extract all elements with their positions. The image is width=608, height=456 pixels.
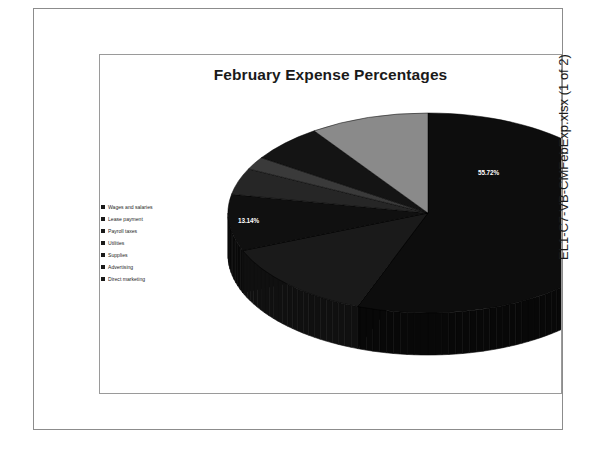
pie-slice-side: [293, 287, 298, 331]
sheet-caption: EL1-C7-VB-CMFebExp.xlsx (1 of 2): [556, 60, 571, 260]
legend-swatch-icon: [101, 265, 105, 269]
legend-item-label: Direct marketing: [108, 276, 145, 282]
pie-slice-side: [309, 293, 315, 337]
pie-slice-side: [534, 296, 540, 340]
legend-swatch-icon: [101, 205, 105, 209]
legend-item-label: Payroll taxes: [108, 228, 137, 234]
pie-slice-side: [250, 259, 253, 304]
pie-slice-side: [528, 298, 534, 342]
pie-slice-side: [366, 308, 373, 351]
pie-slice-side: [288, 284, 293, 328]
pie-slice-side: [254, 262, 258, 307]
pie-slice-side: [332, 301, 338, 345]
pie-slice-side: [496, 306, 503, 349]
pie-slice-side: [551, 290, 556, 334]
pie-slice-side: [298, 289, 303, 333]
pie-slice-side: [269, 274, 273, 319]
pie-data-label: 9.14%: [191, 160, 209, 167]
legend-item-label: Advertising: [108, 264, 133, 270]
pie-slice-side: [516, 301, 522, 345]
pie-slice-side: [326, 299, 332, 343]
pie-slice-side: [338, 302, 344, 346]
pie-slice-side: [414, 313, 421, 355]
chart-object[interactable]: February Expense Percentages Wages and s…: [99, 54, 562, 394]
pie-slice-side: [380, 310, 387, 353]
pie-slice-side: [456, 311, 463, 354]
pie-slice-side: [240, 247, 243, 292]
pie-slice-side: [442, 312, 449, 354]
pie-slice-side: [238, 244, 240, 289]
legend-swatch-icon: [101, 241, 105, 245]
legend-item-label: Supplies: [108, 252, 128, 258]
pie-slice-side: [236, 241, 238, 286]
pie-slice-side: [503, 304, 509, 347]
pie-slice-side: [490, 307, 497, 350]
pie-slice-side: [476, 309, 483, 352]
printed-page-sheet: February Expense Percentages Wages and s…: [33, 8, 563, 430]
pie-slice-side: [303, 291, 309, 335]
pie-slice-side: [421, 313, 428, 355]
pie-data-label: 55.72%: [478, 169, 499, 176]
pie-slice-side: [386, 311, 393, 354]
pie-slice-side: [435, 313, 442, 355]
pie-slice-side: [261, 268, 265, 313]
pie-plot-area[interactable]: 55.72%13.14%9.14%4.27%2.06%6.03%9.64%: [160, 63, 562, 388]
legend-swatch-icon: [101, 277, 105, 281]
pie-slice-side: [257, 265, 261, 310]
pie-slice-side: [265, 271, 269, 316]
legend-swatch-icon: [101, 253, 105, 257]
legend-item-label: Wages and salaries: [108, 204, 153, 210]
pie-slice-side: [283, 282, 288, 326]
pie-slice-side: [557, 287, 562, 331]
pie-slice-side: [393, 311, 400, 354]
legend-item-label: Lease payment: [108, 216, 143, 222]
pie-slice-side: [407, 312, 414, 354]
pie-slice-side: [483, 308, 490, 351]
pie-slice-side: [546, 292, 552, 336]
pie-chart-graphic: [160, 63, 562, 388]
legend-swatch-icon: [101, 217, 105, 221]
pie-slice-side: [345, 304, 351, 347]
pie-slice-side: [244, 253, 247, 298]
pie-slice-side: [463, 311, 470, 354]
pie-slice-side: [400, 312, 407, 354]
pie-data-label: 2.06%: [185, 118, 203, 125]
pie-slice-side: [449, 312, 456, 354]
pie-data-label: 9.64%: [266, 85, 284, 92]
legend-swatch-icon: [101, 229, 105, 233]
pie-slice-side: [373, 309, 380, 352]
pie-data-label: 6.03%: [215, 101, 233, 108]
pie-slice-side: [470, 310, 477, 353]
pie-slice-side: [522, 300, 528, 344]
pie-slice-side: [314, 295, 320, 339]
pie-data-label: 4.27%: [172, 135, 190, 142]
pie-slice-side: [360, 307, 367, 350]
pie-slice-side: [509, 303, 515, 346]
pie-slice-side: [428, 313, 435, 355]
pie-data-label: 13.14%: [238, 217, 259, 224]
pie-slice-side: [278, 279, 283, 324]
pie-slice-side: [273, 276, 278, 321]
pie-slice-side: [540, 294, 546, 338]
legend-item-label: Utilities: [108, 240, 124, 246]
pie-slice-side: [247, 256, 250, 301]
pie-slice-side: [320, 297, 326, 341]
pie-slice-side: [351, 305, 357, 348]
